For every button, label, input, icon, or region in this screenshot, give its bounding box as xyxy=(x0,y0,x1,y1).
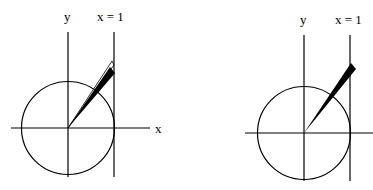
right-y-label: y xyxy=(300,12,307,27)
left-wedge-outline xyxy=(68,61,114,128)
left-y-label: y xyxy=(64,9,71,24)
right-x1-label: x = 1 xyxy=(335,12,362,27)
right-diagram: y x = 1 xyxy=(245,12,373,181)
left-x1-label: x = 1 xyxy=(97,9,124,24)
right-wedge xyxy=(304,63,356,133)
left-wedge xyxy=(68,67,115,128)
left-diagram: y x = 1 x xyxy=(11,9,162,177)
diagram-canvas: y x = 1 x y x = 1 xyxy=(0,0,373,190)
left-x-label: x xyxy=(155,121,162,136)
